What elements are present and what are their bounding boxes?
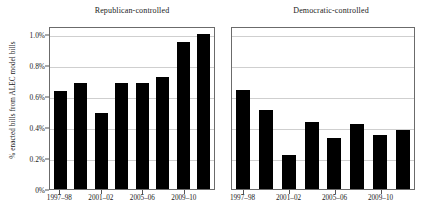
chart-figure: % enacted bills from ALEC model bills 0%… <box>0 0 442 224</box>
bar <box>54 91 67 189</box>
panel-title-democratic: Democratic-controlled <box>231 6 431 15</box>
x-axis-ticks-republican: 1997–982001–022005–062009–10 <box>49 190 215 220</box>
bar-series-democratic <box>232 28 414 189</box>
bar <box>177 42 190 189</box>
x-axis-tick-label: 2005–06 <box>130 194 155 202</box>
x-axis-tick-label: 2001–02 <box>88 194 113 202</box>
bar <box>396 130 410 189</box>
bar <box>350 124 364 189</box>
bar-slot <box>153 28 174 189</box>
panel-republican-controlled: Republican-controlled 1997–982001–022005… <box>49 0 215 224</box>
y-axis-tick-label: 0.8% <box>30 61 45 70</box>
x-axis-tick-label: 1997–98 <box>47 194 72 202</box>
plot-area-democratic <box>231 27 415 190</box>
bar <box>136 83 149 189</box>
bar <box>373 135 387 189</box>
panel-title-republican: Republican-controlled <box>49 6 215 15</box>
bar-slot <box>323 28 346 189</box>
bar-slot <box>346 28 369 189</box>
bar-slot <box>278 28 301 189</box>
x-axis-tick-label: 2001–02 <box>276 194 301 202</box>
bar-slot <box>232 28 255 189</box>
bar <box>197 34 210 189</box>
bar-slot <box>71 28 92 189</box>
bar <box>305 122 319 189</box>
bar <box>327 138 341 189</box>
bar <box>95 113 108 189</box>
x-axis-ticks-democratic: 1997–982001–022005–062009–10 <box>231 190 431 220</box>
y-axis-tick-label: 1.0% <box>30 30 45 39</box>
x-axis-tick-label: 2009–10 <box>171 194 196 202</box>
bar <box>259 110 273 189</box>
bar <box>74 83 87 189</box>
bar-slot <box>194 28 215 189</box>
y-axis-tick-label: 0% <box>35 186 45 195</box>
panel-democratic-controlled: Democratic-controlled 1997–982001–022005… <box>231 0 431 224</box>
y-axis-tick-label: 0.6% <box>30 92 45 101</box>
y-axis-label-container: % enacted bills from ALEC model bills <box>0 0 16 224</box>
y-axis-tick-label: 0.4% <box>30 123 45 132</box>
bar-slot <box>132 28 153 189</box>
bar-slot <box>300 28 323 189</box>
bar-slot <box>50 28 71 189</box>
bar-slot <box>369 28 392 189</box>
bar <box>282 155 296 189</box>
bar-slot <box>173 28 194 189</box>
bar <box>156 77 169 189</box>
bar <box>115 83 128 189</box>
bar <box>236 90 250 189</box>
bar-slot <box>112 28 133 189</box>
bar-series-republican <box>50 28 214 189</box>
y-axis-ticks: 0%0.2%0.4%0.6%0.8%1.0% <box>16 0 49 224</box>
x-axis-tick-label: 2005–06 <box>322 194 347 202</box>
y-axis-tick-label: 0.2% <box>30 154 45 163</box>
x-axis-tick-label: 2009–10 <box>368 194 393 202</box>
bar-slot <box>255 28 278 189</box>
x-axis-tick-label: 1997–98 <box>230 194 255 202</box>
bar-slot <box>91 28 112 189</box>
plot-area-republican <box>49 27 215 190</box>
bar-slot <box>391 28 414 189</box>
